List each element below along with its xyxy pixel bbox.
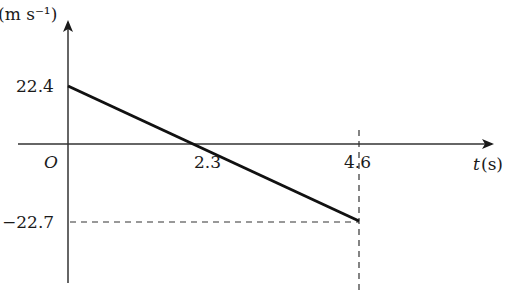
x-tick-2-3: 2.3 xyxy=(194,152,221,172)
x-axis-variable: t xyxy=(473,154,480,174)
x-axis-unit: (s) xyxy=(481,154,503,174)
origin-label: O xyxy=(44,152,58,172)
velocity-time-graph: (m s⁻¹) 22.4 O 2.3 4.6 −22.7 t (s) xyxy=(0,0,511,291)
y-axis-label: (m s⁻¹) xyxy=(0,4,57,24)
y-tick-22-4: 22.4 xyxy=(16,76,54,96)
y-tick-neg-22-7: −22.7 xyxy=(2,212,54,232)
x-tick-4-6: 4.6 xyxy=(344,152,371,172)
